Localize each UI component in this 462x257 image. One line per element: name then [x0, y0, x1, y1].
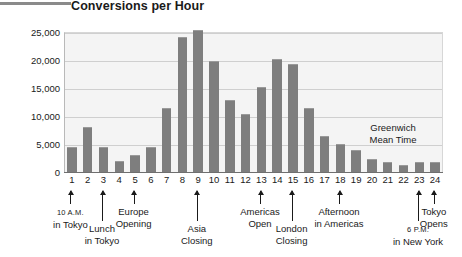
- y-tick-label: 25,000: [2, 28, 60, 38]
- x-axis-line: [64, 172, 443, 173]
- bars-layer: [64, 32, 443, 172]
- y-tick-label: 15,000: [2, 84, 60, 94]
- x-tick-label: 9: [190, 174, 206, 185]
- plot-note-line-1: Greenwich: [357, 122, 429, 134]
- x-tick-label: 21: [380, 174, 396, 185]
- plot-note: Greenwich Mean Time: [357, 122, 429, 145]
- bar[interactable]: [162, 108, 171, 172]
- y-axis: 05,00010,00015,00020,00025,000: [0, 0, 60, 257]
- bar[interactable]: [193, 30, 202, 172]
- bar[interactable]: [399, 165, 408, 172]
- bar[interactable]: [209, 61, 218, 172]
- y-tick-label: 0: [2, 168, 60, 178]
- bar[interactable]: [83, 127, 92, 172]
- bar[interactable]: [272, 59, 281, 172]
- x-tick-label: 20: [364, 174, 380, 185]
- x-tick-label: 1: [64, 174, 80, 185]
- bar[interactable]: [241, 114, 250, 172]
- x-tick-label: 8: [175, 174, 191, 185]
- bar[interactable]: [146, 147, 155, 172]
- bar[interactable]: [178, 37, 187, 172]
- x-tick-label: 18: [332, 174, 348, 185]
- bar[interactable]: [320, 136, 329, 172]
- y-tick-label: 5,000: [2, 140, 60, 150]
- x-tick-label: 12: [238, 174, 254, 185]
- x-tick-label: 15: [285, 174, 301, 185]
- bar[interactable]: [336, 144, 345, 172]
- bar[interactable]: [99, 147, 108, 172]
- x-tick-label: 4: [111, 174, 127, 185]
- bar[interactable]: [430, 162, 439, 172]
- y-tick-label: 20,000: [2, 56, 60, 66]
- bar[interactable]: [351, 150, 360, 172]
- bar[interactable]: [367, 159, 376, 172]
- x-tick-label: 22: [396, 174, 412, 185]
- x-tick-label: 10: [206, 174, 222, 185]
- x-tick-label: 14: [269, 174, 285, 185]
- x-tick-label: 2: [80, 174, 96, 185]
- bar[interactable]: [225, 100, 234, 172]
- x-tick-label: 5: [127, 174, 143, 185]
- x-axis: 123456789101112131415161718192021222324: [64, 174, 443, 188]
- x-tick-label: 16: [301, 174, 317, 185]
- x-tick-label: 19: [348, 174, 364, 185]
- x-tick-label: 7: [159, 174, 175, 185]
- x-tick-label: 6: [143, 174, 159, 185]
- x-tick-label: 3: [96, 174, 112, 185]
- x-tick-label: 24: [427, 174, 443, 185]
- y-tick-label: 10,000: [2, 112, 60, 122]
- plot-note-line-2: Mean Time: [357, 134, 429, 146]
- x-tick-label: 17: [317, 174, 333, 185]
- x-tick-label: 11: [222, 174, 238, 185]
- bar[interactable]: [288, 64, 297, 172]
- bar[interactable]: [67, 147, 76, 172]
- bar[interactable]: [115, 161, 124, 172]
- x-tick-label: 13: [254, 174, 270, 185]
- x-tick-label: 23: [411, 174, 427, 185]
- bar[interactable]: [415, 162, 424, 172]
- bar[interactable]: [383, 162, 392, 172]
- bar[interactable]: [304, 108, 313, 172]
- bar-chart: 05,00010,00015,00020,00025,000 123456789…: [0, 0, 462, 257]
- bar[interactable]: [257, 87, 266, 172]
- bar[interactable]: [130, 155, 139, 172]
